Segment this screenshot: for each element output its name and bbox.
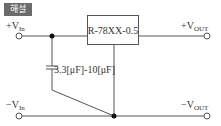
terminal-vout-pos bbox=[204, 33, 210, 39]
symbol: V bbox=[12, 99, 19, 110]
subscript: OUT bbox=[194, 25, 208, 33]
subscript: In bbox=[19, 25, 25, 33]
symbol: V bbox=[12, 20, 19, 31]
symbol: V bbox=[187, 99, 194, 110]
explanation-badge: 해설 bbox=[4, 3, 32, 16]
capacitor-label: 3.3[μF]-10[μF] bbox=[54, 64, 115, 75]
terminal-vin-neg bbox=[16, 113, 22, 119]
label-vin-pos: +VIn bbox=[6, 20, 25, 33]
terminal-vout-neg bbox=[204, 113, 210, 119]
regulator-label: R-78XX-0.5 bbox=[88, 25, 138, 36]
terminal-vin-pos bbox=[16, 33, 22, 39]
subscript: OUT bbox=[194, 104, 208, 112]
junction-dot-bottom bbox=[112, 114, 117, 119]
subscript: In bbox=[19, 104, 25, 112]
junction-dot-top bbox=[50, 34, 55, 39]
symbol: V bbox=[187, 20, 194, 31]
label-vin-neg: −VIn bbox=[6, 99, 25, 112]
label-vout-neg: −VOUT bbox=[181, 99, 208, 112]
label-vout-pos: +VOUT bbox=[181, 20, 208, 33]
regulator-box: R-78XX-0.5 bbox=[87, 15, 139, 45]
